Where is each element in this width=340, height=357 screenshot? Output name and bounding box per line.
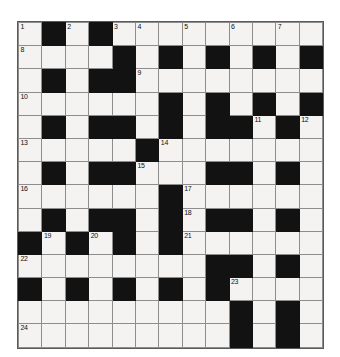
- crossword-cell[interactable]: [19, 301, 42, 324]
- crossword-cell[interactable]: [159, 254, 182, 277]
- crossword-cell[interactable]: [229, 69, 252, 92]
- crossword-cell[interactable]: [19, 69, 42, 92]
- crossword-cell[interactable]: 18: [182, 208, 205, 231]
- crossword-cell[interactable]: [159, 324, 182, 347]
- crossword-cell[interactable]: [299, 324, 322, 347]
- crossword-cell[interactable]: [276, 278, 299, 301]
- crossword-cell[interactable]: [252, 162, 275, 185]
- crossword-cell[interactable]: 19: [42, 231, 65, 254]
- crossword-cell[interactable]: [206, 301, 229, 324]
- crossword-cell[interactable]: [252, 278, 275, 301]
- crossword-cell[interactable]: [276, 185, 299, 208]
- crossword-cell[interactable]: [299, 138, 322, 161]
- crossword-cell[interactable]: [65, 69, 88, 92]
- crossword-cell[interactable]: 24: [19, 324, 42, 347]
- crossword-cell[interactable]: 7: [276, 23, 299, 46]
- crossword-cell[interactable]: [89, 278, 112, 301]
- crossword-cell[interactable]: 20: [89, 231, 112, 254]
- crossword-cell[interactable]: [206, 138, 229, 161]
- crossword-cell[interactable]: [112, 185, 135, 208]
- crossword-cell[interactable]: [135, 92, 158, 115]
- crossword-cell[interactable]: [112, 92, 135, 115]
- crossword-cell[interactable]: 17: [182, 185, 205, 208]
- crossword-cell[interactable]: [276, 231, 299, 254]
- crossword-cell[interactable]: [182, 324, 205, 347]
- crossword-cell[interactable]: [42, 185, 65, 208]
- crossword-cell[interactable]: [89, 92, 112, 115]
- crossword-cell[interactable]: [206, 185, 229, 208]
- crossword-cell[interactable]: [135, 301, 158, 324]
- crossword-cell[interactable]: [299, 69, 322, 92]
- crossword-cell[interactable]: [89, 324, 112, 347]
- crossword-cell[interactable]: 15: [135, 162, 158, 185]
- crossword-cell[interactable]: [19, 162, 42, 185]
- crossword-cell[interactable]: [135, 46, 158, 69]
- crossword-cell[interactable]: [135, 278, 158, 301]
- crossword-cell[interactable]: 6: [229, 23, 252, 46]
- crossword-cell[interactable]: [252, 138, 275, 161]
- crossword-cell[interactable]: [182, 301, 205, 324]
- crossword-cell[interactable]: [252, 69, 275, 92]
- crossword-cell[interactable]: [229, 46, 252, 69]
- crossword-cell[interactable]: [206, 324, 229, 347]
- crossword-cell[interactable]: [229, 231, 252, 254]
- crossword-cell[interactable]: [252, 231, 275, 254]
- crossword-cell[interactable]: [65, 301, 88, 324]
- crossword-cell[interactable]: [206, 231, 229, 254]
- crossword-cell[interactable]: [42, 301, 65, 324]
- crossword-cell[interactable]: [65, 324, 88, 347]
- crossword-cell[interactable]: [299, 23, 322, 46]
- crossword-cell[interactable]: [159, 23, 182, 46]
- crossword-grid[interactable]: 123456789101112131415161718192021222324: [18, 22, 323, 348]
- crossword-cell[interactable]: 23: [229, 278, 252, 301]
- crossword-cell[interactable]: 1: [19, 23, 42, 46]
- crossword-cell[interactable]: [135, 324, 158, 347]
- crossword-cell[interactable]: 4: [135, 23, 158, 46]
- crossword-cell[interactable]: [112, 138, 135, 161]
- crossword-cell[interactable]: 10: [19, 92, 42, 115]
- crossword-cell[interactable]: [182, 254, 205, 277]
- crossword-cell[interactable]: [252, 185, 275, 208]
- crossword-cell[interactable]: [182, 138, 205, 161]
- crossword-cell[interactable]: [65, 46, 88, 69]
- crossword-cell[interactable]: [276, 69, 299, 92]
- crossword-cell[interactable]: [42, 92, 65, 115]
- crossword-cell[interactable]: [182, 162, 205, 185]
- crossword-cell[interactable]: [42, 278, 65, 301]
- crossword-cell[interactable]: [135, 231, 158, 254]
- crossword-cell[interactable]: [299, 278, 322, 301]
- crossword-cell[interactable]: [89, 254, 112, 277]
- crossword-cell[interactable]: 2: [65, 23, 88, 46]
- crossword-cell[interactable]: 12: [299, 115, 322, 138]
- crossword-cell[interactable]: [276, 46, 299, 69]
- crossword-cell[interactable]: [89, 138, 112, 161]
- crossword-cell[interactable]: [252, 301, 275, 324]
- crossword-cell[interactable]: [299, 254, 322, 277]
- crossword-cell[interactable]: [42, 254, 65, 277]
- crossword-cell[interactable]: [229, 92, 252, 115]
- crossword-cell[interactable]: 3: [112, 23, 135, 46]
- crossword-cell[interactable]: [89, 185, 112, 208]
- crossword-cell[interactable]: 21: [182, 231, 205, 254]
- crossword-cell[interactable]: [182, 278, 205, 301]
- crossword-cell[interactable]: [135, 185, 158, 208]
- crossword-cell[interactable]: [252, 254, 275, 277]
- crossword-cell[interactable]: [65, 92, 88, 115]
- crossword-cell[interactable]: 5: [182, 23, 205, 46]
- crossword-cell[interactable]: [135, 208, 158, 231]
- crossword-cell[interactable]: [19, 208, 42, 231]
- crossword-cell[interactable]: [299, 231, 322, 254]
- crossword-cell[interactable]: 22: [19, 254, 42, 277]
- crossword-cell[interactable]: [229, 185, 252, 208]
- crossword-cell[interactable]: [42, 46, 65, 69]
- crossword-cell[interactable]: [299, 301, 322, 324]
- crossword-cell[interactable]: [135, 254, 158, 277]
- crossword-cell[interactable]: 11: [252, 115, 275, 138]
- crossword-cell[interactable]: [206, 23, 229, 46]
- crossword-cell[interactable]: [112, 301, 135, 324]
- crossword-cell[interactable]: [299, 162, 322, 185]
- crossword-cell[interactable]: [112, 254, 135, 277]
- crossword-cell[interactable]: [299, 208, 322, 231]
- crossword-cell[interactable]: [182, 69, 205, 92]
- crossword-cell[interactable]: [65, 115, 88, 138]
